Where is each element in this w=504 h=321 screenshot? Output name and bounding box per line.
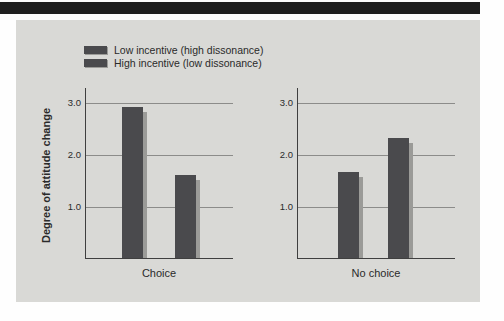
legend-swatch-icon	[84, 46, 107, 54]
y-tick-label: 3.0	[269, 97, 293, 109]
gridline	[86, 207, 233, 208]
chart-no-choice: 3.02.01.0 No choice	[297, 88, 455, 259]
legend-label: Low incentive (high dissonance)	[114, 44, 263, 56]
y-tick-label: 1.0	[57, 201, 81, 213]
y-tick-label: 1.0	[269, 201, 293, 213]
legend-label: High incentive (low dissonance)	[114, 57, 262, 69]
plot-area: 3.02.01.0	[297, 88, 455, 259]
bar-high-incentive	[388, 138, 409, 258]
legend: Low incentive (high dissonance) High inc…	[84, 44, 263, 70]
y-axis-title: Degree of attitude change	[40, 76, 53, 276]
y-tick-label: 2.0	[57, 149, 81, 161]
plot-area: 3.02.01.0	[85, 88, 233, 259]
gridline	[298, 103, 455, 104]
figure-panel: Low incentive (high dissonance) High inc…	[16, 20, 480, 302]
y-tick-label: 2.0	[269, 149, 293, 161]
gridline	[86, 155, 233, 156]
x-axis-label: Choice	[75, 267, 243, 279]
legend-item-low-incentive: Low incentive (high dissonance)	[84, 44, 263, 56]
gridline	[86, 103, 233, 104]
legend-swatch-icon	[84, 59, 107, 67]
legend-item-high-incentive: High incentive (low dissonance)	[84, 57, 263, 69]
chart-choice: 3.02.01.0 Choice	[85, 88, 233, 259]
top-accent-bar	[0, 2, 480, 14]
bar-low-incentive	[122, 107, 143, 258]
x-axis-label: No choice	[287, 267, 465, 279]
gridline	[298, 207, 455, 208]
gridline	[298, 155, 455, 156]
bar-low-incentive	[338, 172, 359, 258]
bar-high-incentive	[175, 175, 196, 258]
page: Low incentive (high dissonance) High inc…	[0, 0, 504, 321]
y-tick-label: 3.0	[57, 97, 81, 109]
